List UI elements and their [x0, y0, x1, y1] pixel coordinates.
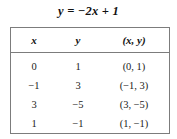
table-header-row: x y (x, y) [11, 28, 170, 53]
table-row: 0 1 (0, 1) [11, 53, 170, 77]
table-row: −1 3 (−1, 3) [11, 76, 170, 95]
page-title: y = −2x + 1 [0, 4, 177, 19]
cell-y: 3 [57, 76, 99, 95]
table-header: x y (x, y) [11, 28, 170, 53]
cell-y: −5 [57, 95, 99, 114]
cell-ordered-pair: (1, −1) [99, 114, 170, 134]
cell-y: 1 [57, 53, 99, 77]
column-header-x: x [11, 28, 58, 53]
column-header-ordered-pair: (x, y) [99, 28, 170, 53]
table-body: 0 1 (0, 1) −1 3 (−1, 3) 3 −5 (3, −5) 1 −… [11, 53, 170, 134]
function-value-table: x y (x, y) 0 1 (0, 1) −1 3 (−1, 3) 3 −5 … [10, 27, 170, 134]
cell-x: 1 [11, 114, 58, 134]
cell-x: −1 [11, 76, 58, 95]
cell-ordered-pair: (0, 1) [99, 53, 170, 77]
cell-ordered-pair: (3, −5) [99, 95, 170, 114]
table-row: 3 −5 (3, −5) [11, 95, 170, 114]
cell-ordered-pair: (−1, 3) [99, 76, 170, 95]
cell-y: −1 [57, 114, 99, 134]
table-row: 1 −1 (1, −1) [11, 114, 170, 134]
cell-x: 0 [11, 53, 58, 77]
worksheet-page: y = −2x + 1 x y (x, y) 0 1 (0, 1) −1 3 (… [0, 0, 177, 139]
cell-x: 3 [11, 95, 58, 114]
column-header-y: y [57, 28, 99, 53]
